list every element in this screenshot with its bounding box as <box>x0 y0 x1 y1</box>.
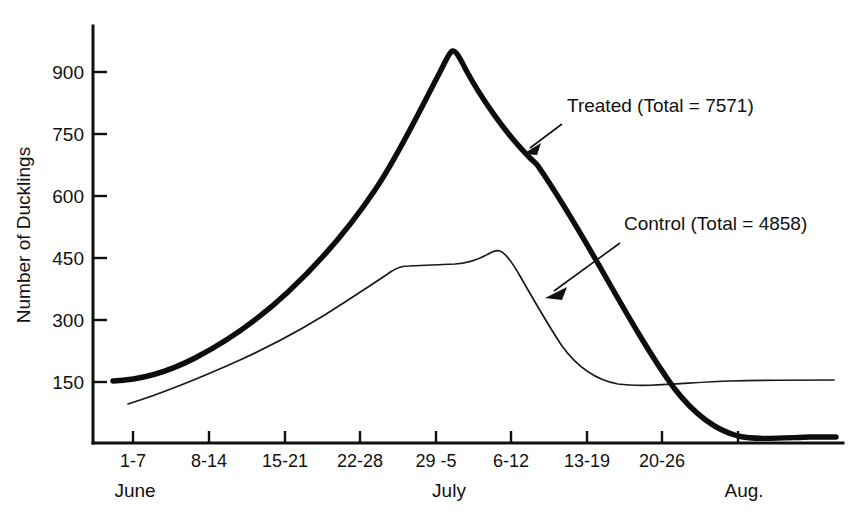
x-axis-labels: 1-7 8-14 15-21 22-28 29 -5 6-12 13-19 20… <box>120 451 685 471</box>
y-tick-label-450: 450 <box>52 248 84 269</box>
y-tick-label-600: 600 <box>52 186 84 207</box>
x-tick-label-3: 15-21 <box>262 451 308 471</box>
control-annotation: Control (Total = 4858) <box>545 213 807 300</box>
x-axis-ticks <box>133 431 738 443</box>
y-axis-labels: 900 750 600 450 300 150 <box>52 62 84 393</box>
y-tick-label-900: 900 <box>52 62 84 83</box>
treated-leader-line <box>530 124 562 148</box>
y-axis-ticks <box>93 72 107 382</box>
treated-leader-arrowhead <box>523 143 541 155</box>
y-tick-label-150: 150 <box>52 372 84 393</box>
month-label-june: June <box>114 480 155 501</box>
x-tick-label-5: 29 -5 <box>415 451 456 471</box>
x-tick-label-7: 13-19 <box>564 451 610 471</box>
month-label-aug: Aug. <box>724 480 763 501</box>
duckling-population-chart: 900 750 600 450 300 150 Number of Duckli… <box>0 0 854 516</box>
x-tick-label-8: 20-26 <box>639 451 685 471</box>
x-tick-label-6: 6-12 <box>493 451 529 471</box>
treated-annotation-label: Treated (Total = 7571) <box>567 95 754 116</box>
x-tick-label-1: 1-7 <box>120 451 146 471</box>
control-annotation-label: Control (Total = 4858) <box>624 213 807 234</box>
y-axis-title: Number of Ducklings <box>13 147 34 323</box>
y-tick-label-300: 300 <box>52 310 84 331</box>
x-axis-month-labels: June July Aug. <box>114 480 763 501</box>
x-tick-label-4: 22-28 <box>337 451 383 471</box>
chart-container: 900 750 600 450 300 150 Number of Duckli… <box>0 0 854 516</box>
treated-annotation: Treated (Total = 7571) <box>523 95 754 155</box>
series-line-control <box>128 251 834 404</box>
month-label-july: July <box>432 480 466 501</box>
y-tick-label-750: 750 <box>52 124 84 145</box>
x-tick-label-2: 8-14 <box>191 451 227 471</box>
